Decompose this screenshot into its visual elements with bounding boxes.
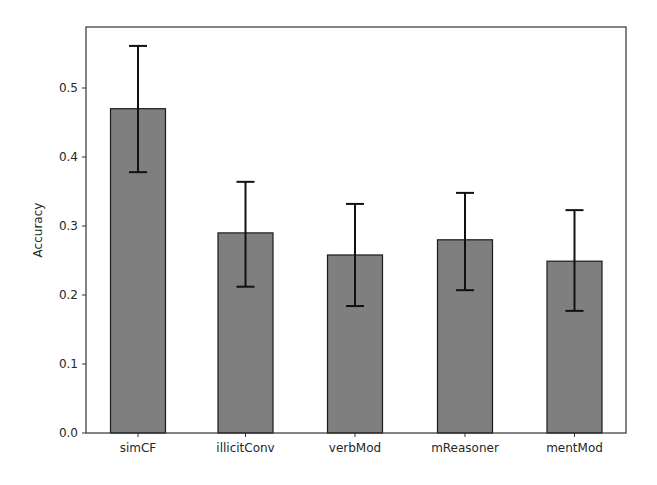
y-tick-label: 0.5 <box>59 81 78 95</box>
y-axis-label: Accuracy <box>31 203 45 258</box>
y-tick-label: 0.1 <box>59 357 78 371</box>
x-axis: simCFillicitConvverbModmReasonermentMod <box>120 433 603 455</box>
y-axis: 0.00.10.20.30.40.5 <box>59 81 86 440</box>
x-tick-label: mentMod <box>546 441 603 455</box>
x-tick-label: mReasoner <box>431 441 499 455</box>
x-tick-label: verbMod <box>329 441 381 455</box>
bar-chart: 0.00.10.20.30.40.5 simCFillicitConvverbM… <box>0 0 657 485</box>
x-tick-label: simCF <box>120 441 157 455</box>
x-tick-label: illicitConv <box>216 441 274 455</box>
bars-group <box>111 109 603 433</box>
y-tick-label: 0.3 <box>59 219 78 233</box>
y-tick-label: 0.0 <box>59 426 78 440</box>
y-tick-label: 0.4 <box>59 150 78 164</box>
y-tick-label: 0.2 <box>59 288 78 302</box>
